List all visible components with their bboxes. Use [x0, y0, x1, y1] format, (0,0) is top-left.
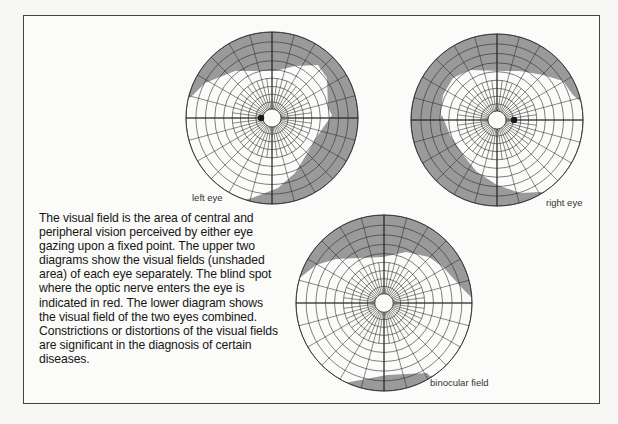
left-eye-label: left eye: [192, 192, 223, 203]
left-eye-grid: [186, 32, 358, 204]
right-eye-field: [411, 34, 590, 206]
binocular-field: [294, 215, 474, 391]
right-eye-blind-spot: [511, 117, 517, 123]
right-eye-label: right eye: [546, 197, 582, 208]
right-eye-grid: [411, 34, 583, 206]
left-eye-blind-spot: [258, 115, 264, 121]
figure-caption: The visual field is the area of central …: [39, 211, 279, 366]
left-eye-field: [186, 32, 358, 210]
binocular-field-label: binocular field: [430, 377, 489, 388]
binocular-grid: [296, 215, 472, 391]
